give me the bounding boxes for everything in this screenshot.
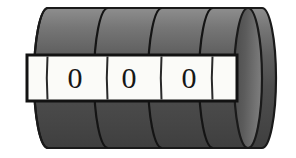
window-separator-0 — [47, 57, 48, 100]
figure-canvas: 0 0 0 — [0, 0, 296, 158]
window-separator-2 — [161, 57, 162, 100]
digit-2: 0 — [182, 61, 197, 94]
window-separator-1 — [107, 57, 108, 100]
window-separator-3 — [212, 57, 213, 100]
digit-0: 0 — [68, 61, 83, 94]
counter-diagram: 0 0 0 — [0, 0, 296, 158]
digit-1: 0 — [122, 61, 137, 94]
